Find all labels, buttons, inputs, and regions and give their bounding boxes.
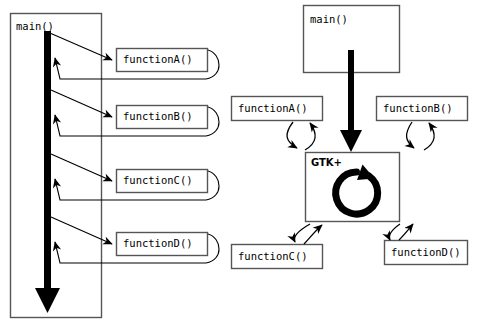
gtk-callback-label-d: functionD() (391, 246, 461, 258)
main-to-gtk-arrowhead (340, 130, 362, 152)
left-function-label-d: functionD() (123, 237, 193, 249)
left-function-label-b: functionB() (123, 110, 193, 122)
left-main-label: main() (16, 20, 54, 32)
main-execution-bar (44, 31, 51, 303)
gtk-return-arrow-b (424, 123, 434, 150)
gtk-callback-label-a: functionA() (238, 102, 308, 114)
main-to-gtk-shaft (348, 50, 354, 136)
gtk-dispatch-arrow-a (287, 122, 297, 148)
gtk-dispatch-arrow-b (407, 122, 414, 148)
right-panel-group (232, 6, 468, 269)
diagram-canvas: main() functionA() functionB() functionC… (0, 0, 482, 327)
gtk-return-arrow-a (305, 123, 315, 150)
left-main-box (11, 14, 102, 318)
gtk-return-arrow-d (399, 224, 413, 240)
gtk-callback-label-c: functionC() (238, 250, 308, 262)
right-main-label: main() (310, 13, 348, 25)
diagram-vector-layer (0, 0, 482, 327)
gtk-callback-label-b: functionB() (383, 102, 453, 114)
gtk-dispatch-arrow-d (389, 224, 400, 240)
left-function-label-c: functionC() (123, 174, 193, 186)
left-function-label-a: functionA() (123, 53, 193, 65)
gtk-box-label: GTK+ (311, 157, 342, 168)
gtk-return-arrow-c (304, 225, 322, 244)
